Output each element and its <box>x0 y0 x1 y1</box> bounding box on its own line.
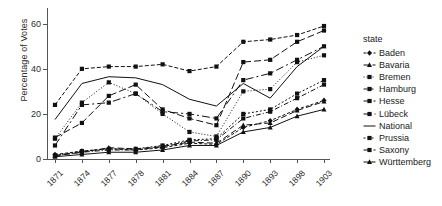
legend-key-icon <box>363 156 376 168</box>
series-marker-saxony <box>53 135 57 139</box>
series-marker-lübeck <box>134 92 138 96</box>
plot-area: 0204060 18711874187718781881188418871890… <box>47 8 330 160</box>
series-marker-saxony <box>241 60 245 64</box>
series-marker-lübeck <box>107 101 111 105</box>
series-marker-saxony <box>295 40 299 44</box>
legend-item-label: Bavaria <box>379 59 410 71</box>
x-tick-label: 1887 <box>206 168 226 188</box>
legend-item-prussia[interactable]: Prussia <box>363 132 431 144</box>
legend-item-hamburg[interactable]: Hamburg <box>363 83 431 95</box>
legend-marker <box>367 50 372 56</box>
series-marker-bremen <box>187 130 191 134</box>
x-tick-label: 1903 <box>314 168 334 188</box>
legend-key-icon <box>363 95 376 107</box>
legend-marker <box>367 87 371 91</box>
series-marker-lübeck <box>53 143 57 147</box>
series-marker-lübeck <box>80 103 84 107</box>
series-marker-prussia <box>322 78 326 82</box>
x-tick-label: 1881 <box>152 168 172 188</box>
legend-item-württemberg[interactable]: Württemberg <box>363 156 431 168</box>
x-tick-label: 1890 <box>233 168 253 188</box>
series-marker-bremen <box>268 87 272 91</box>
legend-item-label: Lübeck <box>379 108 408 120</box>
series-marker-hamburg <box>107 64 111 68</box>
legend-item-bavaria[interactable]: Bavaria <box>363 59 431 71</box>
legend-item-bremen[interactable]: Bremen <box>363 71 431 83</box>
legend-key-icon <box>363 83 376 95</box>
legend-items: BadenBavariaBremenHamburgHesseLübeckNati… <box>363 47 431 169</box>
series-marker-bremen <box>107 80 111 84</box>
series-marker-hamburg <box>241 40 245 44</box>
series-marker-hamburg <box>161 62 165 66</box>
legend-item-label: Hamburg <box>379 83 416 95</box>
legend-key-icon <box>363 120 376 132</box>
x-tick-label: 1884 <box>179 168 199 188</box>
legend-item-label: Prussia <box>379 132 409 144</box>
y-tick-label: 60 <box>31 19 41 29</box>
legend-item-hesse[interactable]: Hesse <box>363 95 431 107</box>
x-tick-label: 1871 <box>45 168 65 188</box>
series-marker-hamburg <box>322 24 326 28</box>
series-marker-lübeck <box>295 58 299 62</box>
series-marker-saxony <box>187 116 191 120</box>
legend-item-saxony[interactable]: Saxony <box>363 144 431 156</box>
legend-item-label: Württemberg <box>379 156 431 168</box>
series-marker-prussia <box>241 112 245 116</box>
series-line-bremen <box>55 55 324 138</box>
series-marker-lübeck <box>268 71 272 75</box>
legend-marker <box>367 111 371 115</box>
y-axis-title: Percentage of Votes <box>19 0 29 125</box>
series-marker-prussia <box>295 92 299 96</box>
series-marker-saxony <box>214 123 218 127</box>
series-marker-hesse <box>241 116 245 120</box>
series-marker-württemberg <box>322 107 327 112</box>
legend-item-label: Bremen <box>379 71 411 83</box>
series-marker-saxony <box>107 94 111 98</box>
series-marker-hamburg <box>187 69 191 73</box>
series-marker-lübeck <box>187 112 191 116</box>
legend-marker <box>367 136 371 140</box>
legend-marker <box>367 75 371 79</box>
series-marker-bremen <box>322 53 326 57</box>
series-marker-saxony <box>161 107 165 111</box>
legend-key-icon <box>363 71 376 83</box>
series-marker-hamburg <box>295 33 299 37</box>
x-tick-label: 1878 <box>125 168 145 188</box>
series-marker-saxony <box>134 83 138 87</box>
series-marker-hamburg <box>134 64 138 68</box>
series-line-hamburg <box>55 26 324 105</box>
legend-item-lübeck[interactable]: Lübeck <box>363 107 431 119</box>
legend-item-baden[interactable]: Baden <box>363 47 431 59</box>
y-tick-label: 20 <box>31 109 41 119</box>
series-marker-hamburg <box>53 103 57 107</box>
chart-container: Percentage of Votes 0204060 187118741877… <box>0 0 442 206</box>
series-marker-bremen <box>241 89 245 93</box>
legend-key-icon <box>363 59 376 71</box>
legend-item-label: National <box>379 120 412 132</box>
series-marker-hesse <box>295 96 299 100</box>
series-marker-saxony <box>268 58 272 62</box>
series-marker-prussia <box>161 143 165 147</box>
legend-item-label: Hesse <box>379 95 405 107</box>
legend: state BadenBavariaBremenHamburgHesseLübe… <box>363 34 431 168</box>
y-tick-label: 40 <box>31 64 41 74</box>
y-tick-label: 0 <box>36 154 41 164</box>
legend-item-label: Baden <box>379 47 405 59</box>
legend-key-icon <box>363 108 376 120</box>
series-marker-prussia <box>214 137 218 141</box>
x-tick-label: 1877 <box>98 168 118 188</box>
legend-title: state <box>363 34 431 44</box>
legend-marker <box>367 148 371 152</box>
series-marker-hesse <box>322 83 326 87</box>
legend-key-icon <box>363 144 376 156</box>
series-marker-hamburg <box>268 37 272 41</box>
legend-key-icon <box>363 47 376 59</box>
series-marker-prussia <box>268 107 272 111</box>
legend-item-label: Saxony <box>379 144 409 156</box>
series-marker-bavaria <box>241 122 246 127</box>
legend-key-icon <box>363 132 376 144</box>
series-line-national <box>55 46 324 119</box>
series-marker-hamburg <box>80 67 84 71</box>
series-marker-prussia <box>187 138 191 142</box>
legend-item-national[interactable]: National <box>363 120 431 132</box>
